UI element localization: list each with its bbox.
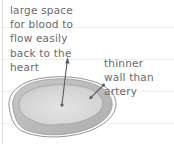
label-line: artery bbox=[104, 84, 154, 98]
label-line: for blood to bbox=[10, 17, 73, 31]
label-line: large space bbox=[10, 3, 73, 17]
label-lumen-annotation: large space for blood to flow easily bac… bbox=[10, 3, 73, 74]
label-line: wall than bbox=[104, 70, 154, 84]
label-wall-annotation: thinner wall than artery bbox=[104, 56, 154, 99]
label-line: back to the bbox=[10, 46, 73, 60]
notebook-diagram-canvas: large space for blood to flow easily bac… bbox=[0, 0, 174, 144]
label-line: heart bbox=[10, 60, 73, 74]
label-line: thinner bbox=[104, 56, 154, 70]
label-line: flow easily bbox=[10, 31, 73, 45]
